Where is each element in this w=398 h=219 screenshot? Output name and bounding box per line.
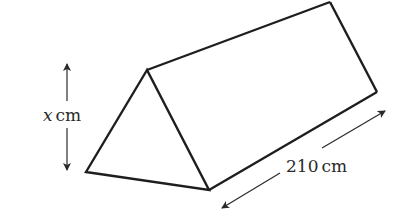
height-variable: x (43, 105, 53, 125)
back-right-edge (330, 2, 377, 92)
height-dimension: xcm (43, 64, 81, 170)
length-value: 210 (286, 156, 318, 176)
height-label: xcm (43, 105, 81, 125)
height-unit: cm (56, 105, 82, 125)
top-ridge-edge (147, 2, 330, 70)
length-arrow-up-right (322, 111, 385, 148)
length-dimension: 210cm (222, 111, 385, 208)
prism-diagram: xcm 210cm (0, 0, 398, 219)
front-triangle-face (86, 70, 209, 190)
length-label: 210cm (286, 156, 347, 176)
length-unit: cm (321, 156, 347, 176)
